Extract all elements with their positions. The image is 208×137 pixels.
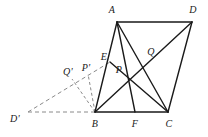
vertex-label-D: D [189,5,196,15]
vertex-label-P-prime: P' [82,63,91,73]
vertex-label-Q: Q [147,47,154,57]
vertex-label-Q-prime: Q' [63,67,73,77]
segment-A-B [95,22,117,112]
vertex-label-D-prime: D' [10,114,20,124]
vertex-label-B: B [92,119,98,129]
segment-D-C [168,22,192,112]
vertex-label-E: E [101,52,107,62]
solid-figure-lines [95,22,192,112]
geometry-figure: A D E P Q P' Q' D' B F C [0,0,208,137]
vertex-label-F: F [132,119,138,129]
vertex-label-C: C [166,119,173,129]
vertex-label-P: P [116,65,122,75]
vertex-label-A: A [109,5,115,15]
segment-B-D [95,22,192,112]
geometry-canvas [0,0,208,137]
